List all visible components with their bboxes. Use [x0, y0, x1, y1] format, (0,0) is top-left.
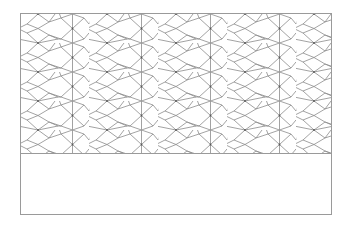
- blank-panel: [21, 154, 331, 214]
- drawing-frame: [20, 13, 332, 215]
- tiling-pattern-panel: [21, 14, 331, 154]
- tiling-pattern: [21, 14, 331, 153]
